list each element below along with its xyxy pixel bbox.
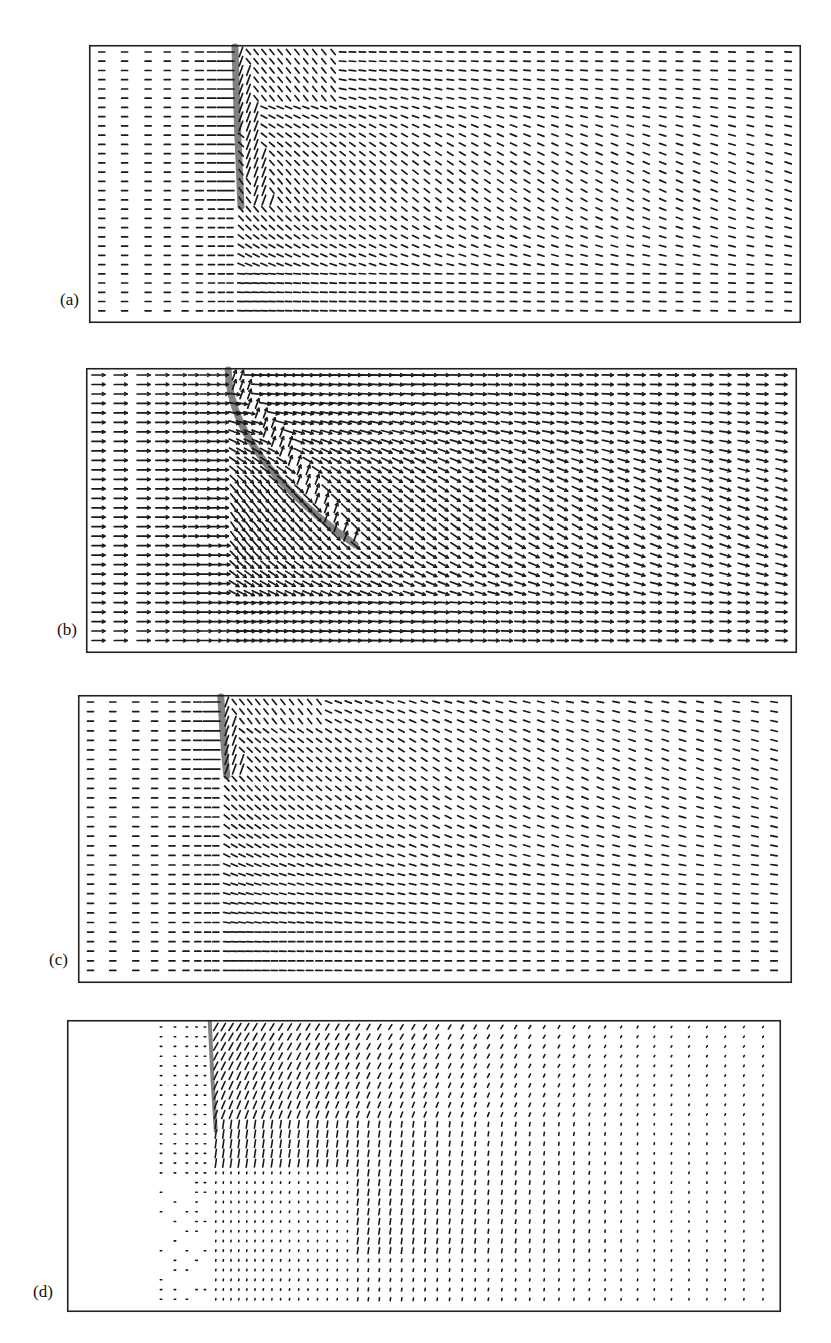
vector-arrows bbox=[88, 697, 778, 970]
panel-label: (c) bbox=[49, 950, 68, 970]
quiver-plot bbox=[89, 45, 801, 323]
quiver-panel-c bbox=[78, 695, 792, 983]
plot-frame bbox=[87, 369, 797, 653]
vector-field bbox=[88, 697, 778, 971]
panel-label: (a) bbox=[60, 290, 79, 310]
vector-arrows bbox=[160, 1023, 763, 1300]
quiver-panel-d bbox=[67, 1020, 781, 1312]
plot-frame bbox=[68, 1021, 781, 1312]
quiver-plot bbox=[78, 695, 792, 983]
quiver-panel-a bbox=[89, 45, 801, 323]
vector-field bbox=[160, 1022, 763, 1301]
plot-frame bbox=[79, 696, 792, 983]
quiver-panel-b bbox=[86, 368, 797, 653]
jet-plume bbox=[221, 697, 227, 776]
panel-label: (d) bbox=[33, 1282, 53, 1302]
panel-label: (b) bbox=[57, 620, 77, 640]
vector-field bbox=[99, 47, 792, 311]
quiver-plot bbox=[86, 368, 797, 653]
vector-arrows bbox=[99, 47, 792, 311]
plot-frame bbox=[90, 46, 801, 323]
quiver-plot bbox=[67, 1020, 781, 1312]
vector-field bbox=[92, 370, 787, 642]
